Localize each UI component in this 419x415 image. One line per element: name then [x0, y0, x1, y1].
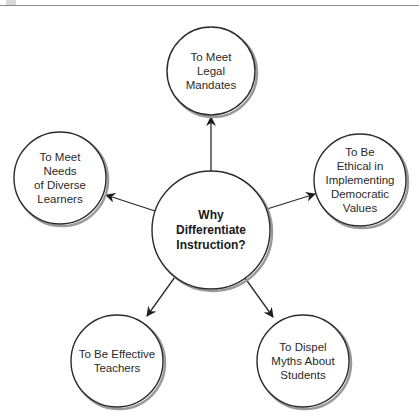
node-legal-label: To Meet Legal Mandates — [167, 27, 255, 115]
node-effective-label: To Be Effective Teachers — [71, 315, 163, 407]
node-myths-label: To Dispel Myths About Students — [257, 315, 349, 407]
node-diverse-label: To Meet Needs of Diverse Learners — [14, 132, 106, 224]
node-ethical-label: To Be Ethical in Implementing Democratic… — [314, 134, 406, 226]
arrow-to-ethical — [267, 194, 315, 209]
central-node-label: Why Differentiate Instruction? — [152, 171, 270, 289]
arrow-to-diverse — [106, 195, 155, 211]
